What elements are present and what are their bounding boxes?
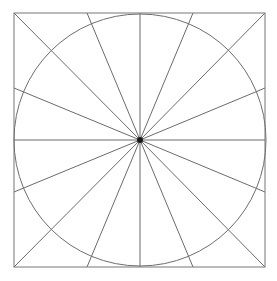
center-point-dot xyxy=(137,137,143,143)
figure-container xyxy=(0,0,277,281)
geometric-figure-svg xyxy=(0,0,277,281)
